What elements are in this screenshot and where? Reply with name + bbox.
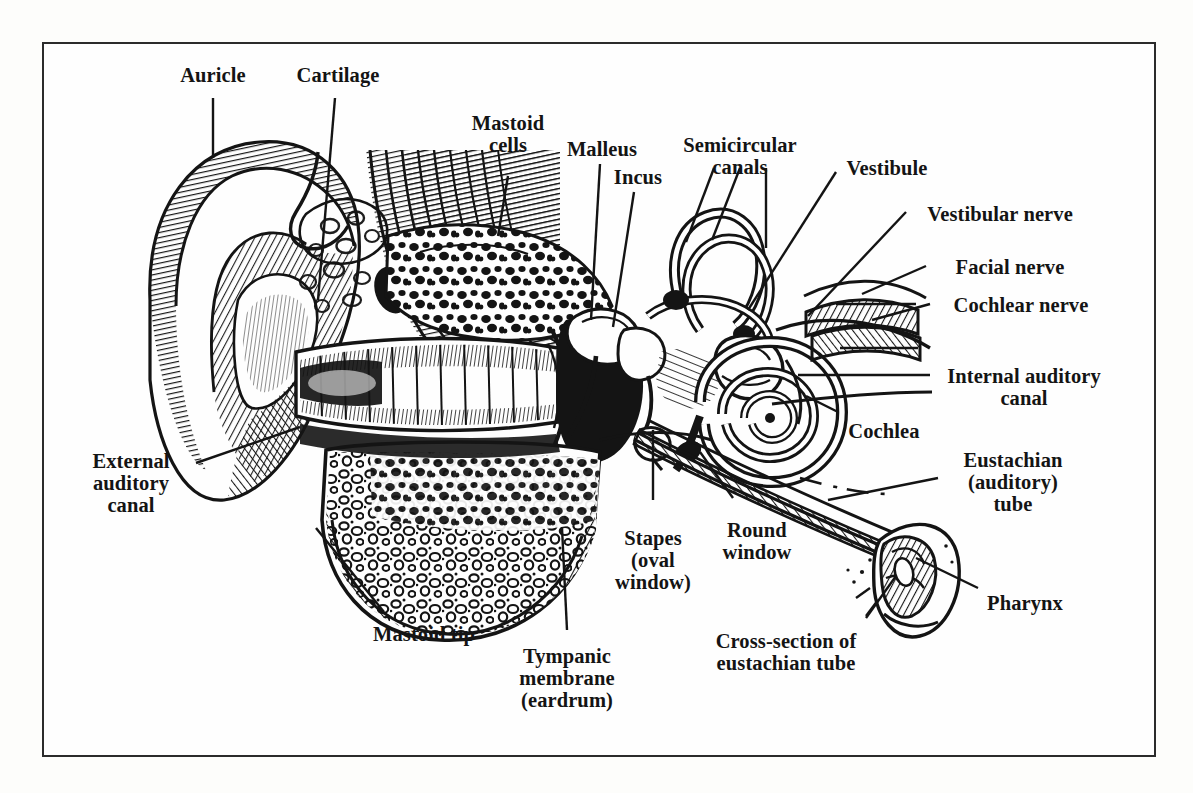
label-cochlear-nerve: Cochlear nerve: [954, 294, 1089, 316]
label-vestibule: Vestibule: [846, 157, 927, 179]
label-external-auditory-canal: External auditory canal: [92, 450, 169, 516]
label-round-window: Round window: [723, 519, 792, 563]
label-internal-auditory-canal: Internal auditory canal: [947, 365, 1101, 409]
label-mastoid-cells: Mastoid cells: [472, 112, 544, 156]
label-cochlea: Cochlea: [848, 420, 919, 442]
label-mastoid-tip: Mastoid tip: [373, 623, 475, 645]
label-malleus: Malleus: [567, 138, 637, 160]
label-cross-section-eustachian: Cross-section of eustachian tube: [716, 630, 857, 674]
label-layer: AuricleCartilageMastoid cellsMalleusIncu…: [0, 0, 1193, 793]
figure-page: AuricleCartilageMastoid cellsMalleusIncu…: [0, 0, 1193, 793]
label-facial-nerve: Facial nerve: [956, 256, 1065, 278]
label-semicircular-canals: Semicircular canals: [683, 134, 797, 178]
label-cartilage: Cartilage: [297, 64, 380, 86]
label-pharynx: Pharynx: [987, 592, 1063, 614]
label-stapes: Stapes (oval window): [615, 527, 691, 593]
label-vestibular-nerve: Vestibular nerve: [927, 203, 1073, 225]
label-incus: Incus: [614, 166, 662, 188]
label-eustachian-tube: Eustachian (auditory) tube: [964, 449, 1063, 515]
label-auricle: Auricle: [180, 64, 246, 86]
label-tympanic-membrane: Tympanic membrane (eardrum): [519, 645, 614, 711]
